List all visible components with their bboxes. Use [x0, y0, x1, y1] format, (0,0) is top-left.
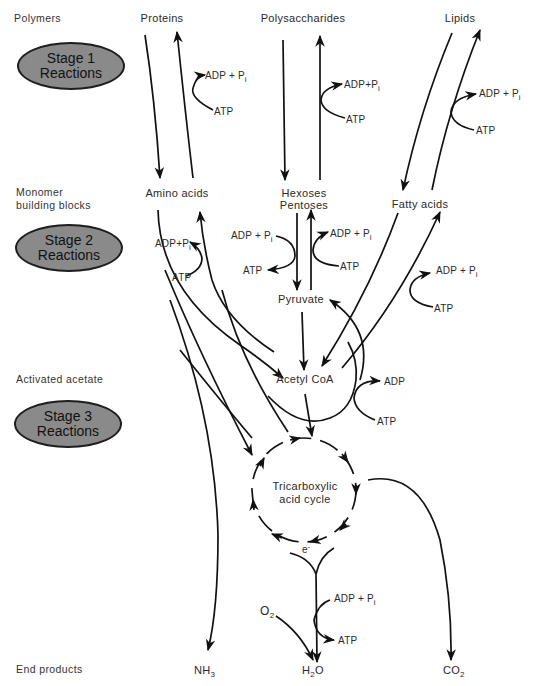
stage1-lipids-atp: ATP [476, 124, 495, 137]
stage2-glycolysis-atp: ATP [243, 264, 262, 277]
proteins-label: Proteins [141, 12, 184, 25]
pentoses-label: Pentoses [280, 199, 328, 212]
nh3-label: NH3 [194, 664, 215, 677]
o2-to-h2o-arrow [276, 616, 313, 660]
stage3-acetyl-atp: ATP [377, 415, 396, 428]
stage-1-badge: Stage 1 Reactions [17, 42, 125, 90]
monomer-label-line2: building blocks [16, 199, 91, 212]
fatty-acids-to-lipids-arrow [432, 30, 480, 190]
amino-acids-label: Amino acids [145, 187, 208, 200]
tca-cycle-label-line2: acid cycle [279, 493, 330, 506]
amino-acids-to-tca-arrow-2 [180, 350, 252, 438]
oxphos-atp: ATP [338, 634, 357, 647]
stage1-polysaccharides-atp: ATP [346, 113, 365, 126]
stage3-acetyl-adp: ADP [384, 375, 405, 388]
monomer-label-line1: Monomer [16, 186, 63, 199]
stage2-glycolysis-adp-pi: ADP + Pi [231, 229, 273, 242]
acetyl-coa-to-tca-arrow [305, 394, 312, 436]
polymers-label: Polymers [14, 12, 61, 25]
stage1-proteins-atp: ATP [214, 105, 233, 118]
stage2-gluconeo-atp: ATP [340, 260, 359, 273]
stage2-amino-adp-pi: ADP+Pi [155, 237, 191, 250]
pyruvate-to-acetyl-coa-arrow [302, 312, 304, 370]
stage-3-line1: Stage 3 [44, 409, 92, 424]
oxphos-adp-pi: ADP + Pi [334, 592, 376, 605]
stage2-fatty-atp: ATP [434, 302, 453, 315]
stage-3-line2: Reactions [37, 424, 99, 439]
stage1-lipids-adp-pi: ADP + Pi [479, 87, 521, 100]
stage-1-line1: Stage 1 [47, 51, 95, 66]
acetyl-coa-to-pyruvate-arrow [330, 300, 364, 380]
co2-label: CO2 [443, 664, 465, 677]
tca-cycle-label-line1: Tricarboxylic [272, 480, 337, 493]
o2-label: O2 [260, 605, 274, 618]
stage-2-line2: Reactions [38, 248, 100, 263]
stage-3-badge: Stage 3 Reactions [14, 400, 122, 448]
amino-acids-to-tca-arrow [165, 270, 252, 455]
h2o-label: H2O [302, 664, 324, 677]
lipids-to-fatty-acids-arrow [403, 33, 452, 190]
activated-acetate-label: Activated acetate [16, 373, 103, 386]
metabolic-pathway-arrows [0, 0, 533, 686]
polysaccharides-label: Polysaccharides [261, 12, 346, 25]
stage1-proteins-adp-pi: ADP + Pi [205, 69, 247, 82]
proteins-to-amino-acids-arrow [145, 35, 160, 178]
tca-to-co2-arrow [368, 479, 451, 660]
stage2-amino-atp: ATP [172, 271, 191, 284]
end-products-label: End products [16, 663, 83, 676]
polysaccharides-to-hexoses-arrow [283, 40, 285, 180]
stage2-fatty-adp-pi: ADP + Pi [436, 264, 478, 277]
lipids-label: Lipids [445, 12, 476, 25]
stage-2-badge: Stage 2 Reactions [15, 224, 123, 272]
stage2-gluconeo-adp-pi: ADP + Pi [330, 227, 372, 240]
pyruvate-label: Pyruvate [278, 293, 324, 306]
electron-fork-left [290, 553, 316, 574]
atp-coupling-stage1-polysaccharides [321, 84, 345, 118]
fatty-acids-label: Fatty acids [392, 198, 449, 211]
amino-acids-to-nh3-arrow [170, 300, 218, 650]
electron-fork-right [316, 548, 334, 574]
amino-acids-to-proteins-arrow [177, 32, 193, 178]
tca-to-amino-acids-line [222, 290, 288, 432]
atp-coupling-stage2-fatty [410, 273, 433, 307]
acetyl-coa-label: Acetyl CoA [276, 373, 333, 386]
electrons-to-h2o-arrow [316, 572, 317, 662]
stage-2-line1: Stage 2 [45, 233, 93, 248]
stage1-polysaccharides-adp-pi: ADP+Pi [344, 78, 380, 91]
electron-label: e- [302, 543, 310, 556]
stage-1-line2: Reactions [40, 66, 102, 81]
